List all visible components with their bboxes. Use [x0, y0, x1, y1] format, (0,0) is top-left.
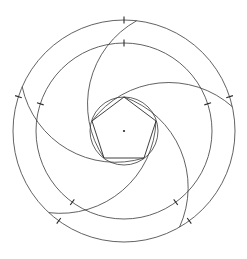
outer-circle-ticks: [15, 17, 233, 224]
tick-middle-4: [70, 199, 74, 205]
pentagon-group: [92, 97, 156, 158]
tick-middle-3: [174, 199, 178, 205]
tick-outer-4: [57, 218, 61, 224]
inscribed-pentagon: [92, 97, 156, 158]
geometry-diagram: [0, 0, 247, 259]
spiral-arc-5: [92, 83, 232, 121]
spiral-arc-4: [88, 21, 137, 158]
spiral-arc-group: [22, 21, 232, 227]
spiral-arc-2: [49, 121, 156, 213]
figure-canvas: [0, 0, 247, 259]
spiral-arc-1: [124, 97, 188, 227]
tick-outer-3: [187, 218, 191, 224]
center-marker-group: [123, 130, 125, 132]
middle-circle-ticks: [37, 40, 211, 206]
center-dot: [123, 130, 125, 132]
